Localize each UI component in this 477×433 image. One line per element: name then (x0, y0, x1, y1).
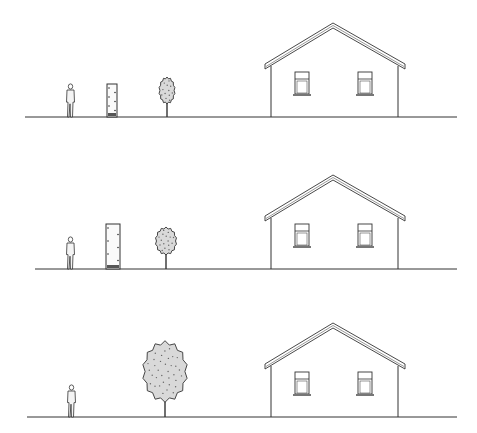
window-sill (293, 94, 311, 96)
tree-leaf-mark (153, 359, 154, 360)
tree-crown (156, 227, 177, 255)
house (265, 175, 405, 269)
house-window (356, 72, 374, 96)
tree-leaf-mark (160, 361, 161, 362)
tree-crown (159, 77, 175, 104)
window-sill (293, 394, 311, 396)
person-head (68, 237, 72, 242)
tree-leaf-mark (169, 384, 170, 385)
tree-leaf-mark (158, 236, 159, 237)
tree-leaf-mark (166, 236, 167, 237)
house-window (356, 224, 374, 248)
house-roof-fascia (266, 178, 404, 219)
tree-leaf-mark (169, 95, 170, 96)
tree-leaf-mark (165, 98, 166, 99)
tree-leaf-mark (164, 350, 165, 351)
person-body (67, 90, 75, 117)
tree-leaf-mark (165, 364, 166, 365)
tree-leaf-mark (164, 82, 165, 83)
tree (156, 227, 177, 269)
tree-leaf-mark (168, 249, 169, 250)
tree-leaf-mark (175, 380, 176, 381)
tree (143, 341, 187, 417)
tree-leaf-mark (169, 348, 170, 349)
house-window (293, 372, 311, 396)
tree-leaf-mark (147, 363, 148, 364)
tree-leaf-mark (161, 355, 162, 356)
house (265, 23, 405, 117)
tree-leaf-mark (155, 353, 156, 354)
house-roof-fascia (266, 26, 404, 67)
tree-leaf-mark (168, 245, 169, 246)
column-texture-dot (117, 260, 119, 262)
house-roof (265, 323, 405, 369)
tree-leaf-mark (163, 243, 164, 244)
tree-leaf-mark (166, 389, 167, 390)
column-texture-dot (107, 240, 109, 242)
tree-leaf-mark (170, 86, 171, 87)
house-window (293, 72, 311, 96)
column-texture-dot (114, 101, 116, 103)
tree-crown (143, 341, 187, 403)
column-texture-dot (107, 253, 109, 255)
house-window (356, 372, 374, 396)
tree-leaf-mark (162, 234, 163, 235)
person-body (68, 391, 76, 417)
tree-leaf-mark (164, 248, 165, 249)
tree-leaf-mark (168, 80, 169, 81)
column-texture-dot (108, 105, 110, 107)
elevation-diagram (0, 0, 477, 433)
tree-leaf-mark (158, 370, 159, 371)
tree-leaf-mark (175, 366, 176, 367)
window-sill (356, 94, 374, 96)
tree-leaf-mark (171, 365, 172, 366)
person-head (69, 385, 73, 390)
column-shape (106, 224, 120, 269)
house (265, 323, 405, 417)
house-roof-fascia (266, 326, 404, 367)
tree-leaf-mark (172, 92, 173, 93)
tree-leaf-mark (156, 377, 157, 378)
tree-leaf-mark (159, 385, 160, 386)
tree-leaf-mark (168, 358, 169, 359)
column-texture-dot (108, 96, 110, 98)
tree-leaf-mark (167, 85, 168, 86)
tree-leaf-mark (162, 250, 163, 251)
tree-leaf-mark (149, 370, 150, 371)
person-figure (68, 385, 76, 417)
tree-leaf-mark (179, 369, 180, 370)
tree-leaf-mark (173, 374, 174, 375)
person-figure (67, 237, 75, 269)
house-window (293, 224, 311, 248)
house-roof (265, 175, 405, 221)
tree (159, 77, 175, 117)
tree-leaf-mark (161, 375, 162, 376)
tree-leaf-mark (164, 93, 165, 94)
column-texture-dot (117, 234, 119, 236)
tree-leaf-mark (177, 357, 178, 358)
tree-leaf-mark (169, 100, 170, 101)
tree-leaf-mark (162, 393, 163, 394)
window-sill (293, 246, 311, 248)
person-head (68, 84, 72, 89)
tree-leaf-mark (171, 243, 172, 244)
column-texture-dot (117, 247, 119, 249)
tree-leaf-mark (162, 89, 163, 90)
column-texture-dot (108, 87, 110, 89)
tree-leaf-mark (167, 240, 168, 241)
tree-leaf-mark (163, 382, 164, 383)
tree-leaf-mark (152, 375, 153, 376)
window-sill (356, 394, 374, 396)
tree-leaf-mark (159, 244, 160, 245)
tree-leaf-mark (167, 371, 168, 372)
column-texture-dot (114, 92, 116, 94)
tree-leaf-mark (172, 356, 173, 357)
tree-leaf-mark (170, 236, 171, 237)
column-shape (107, 84, 117, 117)
person-figure (67, 84, 75, 117)
column-base (107, 265, 119, 268)
tree-leaf-mark (175, 386, 176, 387)
tree-leaf-mark (168, 377, 169, 378)
panel-1 (25, 23, 457, 117)
person-body (67, 243, 75, 269)
